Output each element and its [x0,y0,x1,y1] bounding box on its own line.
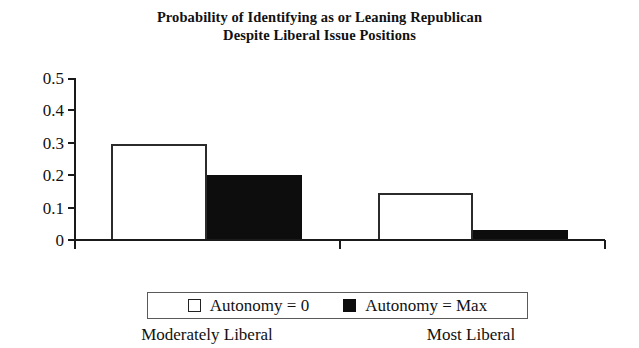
y-tick-mark-2 [68,174,75,176]
chart-legend: Autonomy = 0 Autonomy = Max [147,292,528,319]
x-tick-category-divider [339,240,341,249]
chart-figure: Probability of Identifying as or Leaning… [0,0,639,348]
y-tick-label-0: 0 [56,232,65,249]
x-category-label-most-liberal: Most Liberal [351,326,591,343]
legend-label-autonomy-max: Autonomy = Max [365,297,487,314]
x-tick-start [74,240,76,249]
bar-most-liberal-autonomy-0 [378,193,473,239]
chart-title-line-1: Probability of Identifying as or Leaning… [0,8,639,26]
chart-title: Probability of Identifying as or Leaning… [0,8,639,44]
black-square-icon [343,299,356,312]
y-tick-label-1: 0.1 [43,199,64,216]
y-tick-label-5: 0.5 [43,70,64,87]
legend-entry-autonomy-0: Autonomy = 0 [188,297,309,314]
bar-moderately-liberal-autonomy-0 [111,144,207,239]
y-axis-line [74,78,76,241]
x-category-label-moderately-liberal: Moderately Liberal [87,326,327,343]
y-tick-mark-4 [68,109,75,111]
bar-moderately-liberal-autonomy-max [207,175,302,239]
legend-entry-autonomy-max: Autonomy = Max [343,297,487,314]
bar-most-liberal-autonomy-max [473,230,568,239]
y-tick-label-4: 0.4 [43,102,64,119]
chart-title-line-2: Despite Liberal Issue Positions [0,26,639,44]
white-square-icon [188,299,201,312]
plot-area: 0 0.1 0.2 0.3 0.4 0.5 [75,78,605,240]
y-tick-mark-3 [68,142,75,144]
legend-label-autonomy-0: Autonomy = 0 [210,297,309,314]
y-tick-mark-5 [68,78,75,80]
y-tick-label-2: 0.2 [43,167,64,184]
y-tick-label-3: 0.3 [43,134,64,151]
x-tick-end [604,240,606,249]
y-tick-mark-1 [68,207,75,209]
